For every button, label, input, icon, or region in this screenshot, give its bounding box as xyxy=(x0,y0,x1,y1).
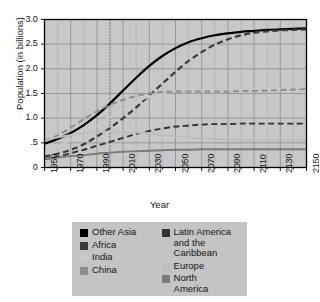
x-tick-label: 2130 xyxy=(284,153,294,172)
x-tick-label: 1990 xyxy=(101,153,111,172)
legend-swatch-icon xyxy=(80,242,88,250)
population-projection-chart: 0.51.01.52.02.53.0 195019701990201020302… xyxy=(0,0,319,302)
legend-swatch-icon xyxy=(80,254,88,262)
legend-swatch-icon xyxy=(80,267,88,275)
legend-item-label: Africa xyxy=(92,240,116,251)
x-tick-label: 2050 xyxy=(180,153,190,172)
legend-swatch-icon xyxy=(162,275,170,283)
legend-swatch-icon xyxy=(162,229,170,237)
legend-item[interactable]: Other Asia xyxy=(80,227,152,238)
legend-item[interactable]: Africa xyxy=(80,240,152,251)
legend-column-left: Other AsiaAfricaIndiaChina xyxy=(80,227,152,296)
legend-item[interactable]: Europe xyxy=(162,261,247,272)
legend-item[interactable]: China xyxy=(80,265,152,276)
y-axis-title: Population (in billions) xyxy=(14,4,25,124)
legend-item-label: Europe xyxy=(174,261,205,272)
legend-item-label: Other Asia xyxy=(92,227,136,238)
legend-swatch-icon xyxy=(162,263,170,271)
legend-item[interactable]: India xyxy=(80,252,152,263)
chart-legend: Other AsiaAfricaIndiaChina Latin America… xyxy=(72,222,247,296)
legend-swatch-icon xyxy=(80,229,88,237)
legend-item-label: India xyxy=(92,252,113,263)
x-axis-title: Year xyxy=(0,199,319,210)
legend-item-label: North America xyxy=(174,273,209,294)
legend-item-label: China xyxy=(92,265,117,276)
legend-item-label: Latin America and the Caribbean xyxy=(174,227,247,259)
y-tick-label: 0 xyxy=(14,162,38,172)
y-tick-label: .5 xyxy=(14,137,38,147)
x-tick-label: 2030 xyxy=(153,153,163,172)
x-tick-label: 1970 xyxy=(75,153,85,172)
x-tick-label: 2010 xyxy=(127,153,137,172)
legend-column-right: Latin America and the CaribbeanEuropeNor… xyxy=(162,227,247,296)
legend-item[interactable]: Latin America and the Caribbean xyxy=(162,227,247,259)
legend-item[interactable]: North America xyxy=(162,273,247,294)
x-tick-label: 2150 xyxy=(311,153,320,172)
x-tick-label: 2090 xyxy=(232,153,242,172)
x-tick-label: 1950 xyxy=(49,153,59,172)
x-tick-label: 2070 xyxy=(206,153,216,172)
x-tick-label: 2110 xyxy=(258,154,268,173)
